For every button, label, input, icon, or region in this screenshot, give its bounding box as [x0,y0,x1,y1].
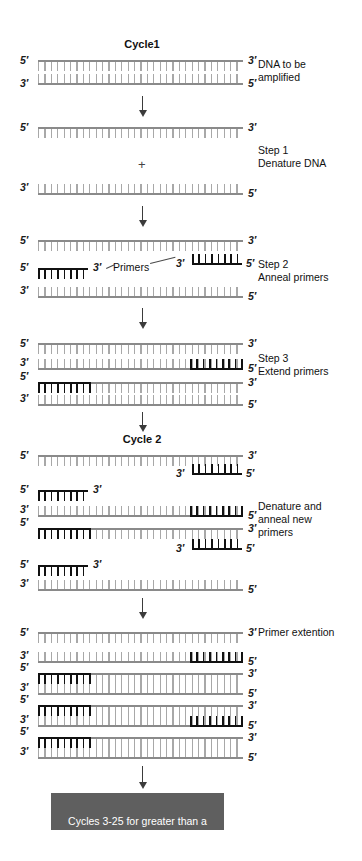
primer-ticks [190,716,243,725]
flow-arrow [138,766,147,790]
primer-ticks [192,464,242,473]
end-label-5prime: 5′ [248,363,256,374]
strand-ticks [38,580,243,589]
end-label-3prime: 3′ [248,523,256,534]
primer-ticks [38,739,91,748]
end-label-3prime: 3′ [248,700,256,711]
primers-leader-right [150,257,175,264]
primer-backbone [190,661,243,663]
end-label-3prime: 3′ [248,668,256,679]
end-label-5prime: 5′ [248,584,256,595]
primer-backbone [192,473,242,475]
end-label-5prime: 5′ [20,122,28,133]
end-label-5prime: 5′ [20,338,28,349]
end-label-3prime: 3′ [20,714,28,725]
end-label-3prime: 3′ [248,55,256,66]
end-label-5prime: 5′ [20,694,28,705]
end-label-3prime: 3′ [20,504,28,515]
caption-step-1: Step 1 Denature DNA [258,144,358,170]
strand-backbone [38,193,243,195]
primer-ticks [192,254,242,263]
caption-dna-to-be-amplified: DNA to be amplified [258,58,358,84]
end-label-5prime: 5′ [20,627,28,638]
end-label-5prime: 5′ [248,656,256,667]
strand-ticks [38,242,243,251]
end-label-5prime: 5′ [248,188,256,199]
strand-ticks [38,184,243,193]
end-label-5prime: 5′ [20,235,28,246]
end-label-3prime: 3′ [20,746,28,757]
caption-step-3: Step 3 Extend primers [258,352,358,378]
result-caption-box: Cycles 3-25 for greater than a 106-fold … [51,793,224,830]
strand-ticks [38,634,243,643]
primer-ticks [38,270,88,279]
strand-ticks [38,748,243,757]
end-label-3prime: 3′ [20,285,28,296]
primer-ticks [38,675,91,684]
end-label-3prime: 3′ [20,182,28,193]
strand-ticks [38,62,243,71]
primer-ticks [38,707,91,716]
end-label-5prime: 5′ [20,517,28,528]
end-label-3prime: 3′ [20,650,28,661]
end-label-5prime: 5′ [248,752,256,763]
end-label-3prime: 3′ [248,235,256,246]
caption-step-2: Step 2 Anneal primers [258,258,358,284]
primer-ticks [38,384,91,393]
end-label-5prime: 5′ [20,662,28,673]
primers-label: Primers [113,261,149,273]
strand-backbone [38,83,243,85]
end-label-3prime: 3′ [248,122,256,133]
end-label-3prime: 3′ [20,578,28,589]
end-label-3prime: 3′ [248,450,256,461]
strand-backbone [38,404,243,406]
flow-arrow [138,96,147,118]
end-label-5prime: 5′ [248,291,256,302]
primer-ticks [38,492,88,501]
end-label-5prime: 5′ [20,726,28,737]
cycle-1-title: Cycle1 [92,38,192,50]
end-label-3prime: 3′ [248,732,256,743]
flow-arrow [138,206,147,228]
end-label-3prime: 3′ [93,559,101,570]
result-line-2-rest: -fold increase in DNA [96,846,195,858]
flow-arrow [138,308,147,330]
end-label-3prime: 3′ [176,258,184,269]
plus-symbol: + [138,158,146,171]
primer-ticks [190,359,243,368]
primer-ticks [38,567,88,576]
end-label-5prime: 5′ [20,371,28,382]
primer-backbone [190,725,243,727]
end-label-5prime: 5′ [20,484,28,495]
primer-backbone [192,263,242,265]
strand-backbone [38,296,243,298]
end-label-5prime: 5′ [20,55,28,66]
caption-denature-anneal-new-primers: Denature and anneal new primers [258,500,358,539]
primer-ticks [190,652,243,661]
end-label-3prime: 3′ [93,262,101,273]
end-label-3prime: 3′ [93,484,101,495]
primer-backbone [190,515,243,517]
strand-ticks [38,287,243,296]
caption-primer-extention: Primer extention [258,626,358,639]
end-label-3prime: 3′ [248,338,256,349]
strand-ticks [38,395,243,404]
end-label-3prime: 3′ [176,543,184,554]
primer-backbone [192,548,242,550]
end-label-5prime: 5′ [246,468,254,479]
end-label-3prime: 3′ [20,682,28,693]
strand-ticks [38,129,243,138]
strand-backbone [38,589,243,591]
strand-ticks [38,345,243,354]
cycle-2-title: Cycle 2 [92,433,192,445]
end-label-5prime: 5′ [246,543,254,554]
end-label-5prime: 5′ [20,262,28,273]
result-line-2-base: 10 [80,846,92,858]
end-label-3prime: 3′ [176,468,184,479]
flow-arrow [138,598,147,620]
primer-backbone [190,368,243,370]
strand-backbone [38,757,243,759]
pcr-diagram: Cycle1 5′ 3′ 3′ 5′ DNA to be amplified 5… [0,0,362,861]
strand-ticks [38,74,243,83]
end-label-3prime: 3′ [20,78,28,89]
